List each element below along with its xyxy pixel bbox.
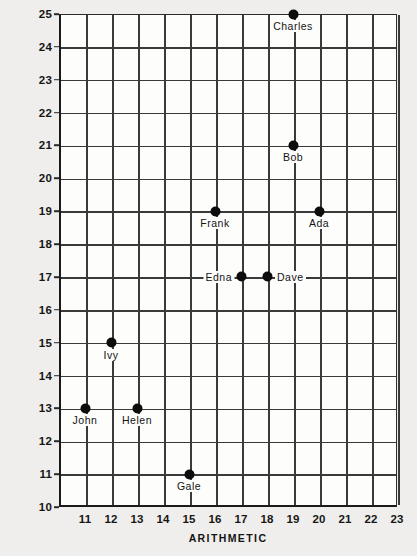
y-axis-tick-mark xyxy=(54,276,59,278)
y-axis-tick-label: 21 xyxy=(26,139,52,151)
gridline-horizontal xyxy=(61,113,396,115)
data-point-marker[interactable] xyxy=(315,207,324,216)
y-axis-tick-mark xyxy=(54,13,59,15)
gridline-horizontal xyxy=(61,80,396,82)
gridline-vertical xyxy=(346,15,348,505)
y-axis-tick-mark xyxy=(54,506,59,508)
data-point-marker[interactable] xyxy=(133,404,142,413)
data-point-marker[interactable] xyxy=(81,404,90,413)
gridline-horizontal xyxy=(61,146,396,148)
gridline-vertical xyxy=(164,15,166,505)
plot-area xyxy=(59,14,397,507)
x-axis-title: ARITHMETIC xyxy=(59,532,397,544)
gridline-horizontal xyxy=(61,442,396,444)
y-axis-tick-mark xyxy=(54,408,59,410)
data-point-marker[interactable] xyxy=(289,10,298,19)
gridline-horizontal xyxy=(61,310,396,312)
y-axis-tick-label: 24 xyxy=(26,41,52,53)
gridline-vertical xyxy=(216,15,218,505)
y-axis-tick-label: 18 xyxy=(26,238,52,250)
data-point-label: Dave xyxy=(275,271,306,283)
y-axis-tick-mark xyxy=(54,112,59,114)
data-point-marker[interactable] xyxy=(237,272,246,281)
y-axis-tick-label: 23 xyxy=(26,74,52,86)
gridline-vertical xyxy=(190,15,192,505)
y-axis-tick-mark xyxy=(54,210,59,212)
data-point-marker[interactable] xyxy=(211,207,220,216)
data-point-marker[interactable] xyxy=(263,272,272,281)
y-axis-tick-mark xyxy=(54,145,59,147)
gridline-vertical xyxy=(372,15,374,505)
y-axis-tick-label: 14 xyxy=(26,370,52,382)
x-axis-tick-label: 23 xyxy=(382,513,412,525)
y-axis-tick-mark xyxy=(54,79,59,81)
y-axis-tick-mark xyxy=(54,46,59,48)
data-point-label: Ivy xyxy=(102,349,121,361)
gridline-horizontal xyxy=(61,409,396,411)
data-point-label: Charles xyxy=(271,20,315,32)
y-axis-tick-label: 16 xyxy=(26,304,52,316)
data-point-marker[interactable] xyxy=(185,470,194,479)
gridline-vertical xyxy=(112,15,114,505)
gridline-vertical xyxy=(294,15,296,505)
y-axis-tick-label: 12 xyxy=(26,435,52,447)
data-point-label: Bob xyxy=(281,151,305,163)
data-point-label: John xyxy=(71,414,100,426)
data-point-label: Frank xyxy=(198,217,231,229)
gridline-vertical xyxy=(86,15,88,505)
y-axis-tick-label: 15 xyxy=(26,337,52,349)
y-axis-tick-mark xyxy=(54,243,59,245)
gridline-horizontal xyxy=(61,376,396,378)
y-axis-tick-label: 11 xyxy=(26,468,52,480)
data-point-marker[interactable] xyxy=(107,338,116,347)
gridline-vertical xyxy=(242,15,244,505)
y-axis-tick-label: 13 xyxy=(26,402,52,414)
y-axis-tick-label: 20 xyxy=(26,172,52,184)
gridline-vertical xyxy=(320,15,322,505)
gridline-horizontal xyxy=(61,211,396,213)
data-point-label: Edna xyxy=(203,271,234,283)
gridline-vertical xyxy=(398,15,400,505)
y-axis-tick-label: 19 xyxy=(26,205,52,217)
y-axis-tick-mark xyxy=(54,375,59,377)
data-point-label: Helen xyxy=(120,414,154,426)
scatter-plot-figure: 25242322212019181716151413121110 1112131… xyxy=(0,0,417,556)
y-axis-tick-mark xyxy=(54,178,59,180)
gridline-vertical xyxy=(138,15,140,505)
gridline-horizontal xyxy=(61,244,396,246)
gridline-horizontal xyxy=(61,474,396,476)
gridline-horizontal xyxy=(61,179,396,181)
gridline-vertical xyxy=(268,15,270,505)
y-axis-tick-label: 17 xyxy=(26,271,52,283)
y-axis-tick-mark xyxy=(54,440,59,442)
y-axis-tick-mark xyxy=(54,342,59,344)
y-axis-tick-mark xyxy=(54,309,59,311)
y-axis-tick-label: 10 xyxy=(26,501,52,513)
y-axis-tick-label: 25 xyxy=(26,8,52,20)
data-point-label: Ada xyxy=(307,217,331,229)
data-point-marker[interactable] xyxy=(289,141,298,150)
gridline-horizontal xyxy=(61,47,396,49)
y-axis-tick-label: 22 xyxy=(26,107,52,119)
data-point-label: Gale xyxy=(175,480,203,492)
y-axis-tick-mark xyxy=(54,473,59,475)
